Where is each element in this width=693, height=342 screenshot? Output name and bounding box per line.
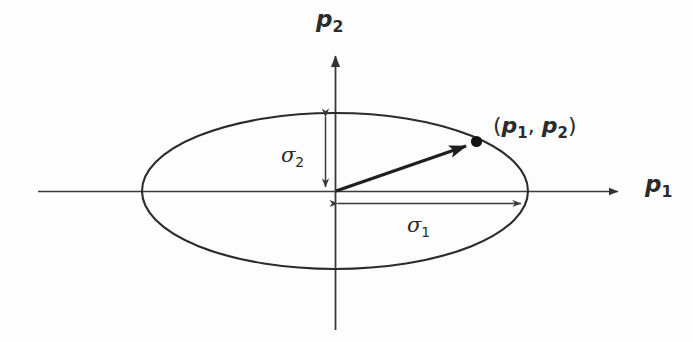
- p2-axis-label-subscript: 2: [332, 17, 343, 36]
- point-label-p2-base: p: [542, 113, 558, 138]
- sigma2-label: σ2: [281, 143, 304, 170]
- p2-axis-label: p2: [316, 6, 343, 36]
- point-coordinates-label: (p1, p2): [493, 113, 577, 142]
- ellipse-diagram-svg: [0, 0, 693, 342]
- figure-canvas: p2 p1 (p1, p2) σ2 σ1: [0, 0, 693, 342]
- point-label-open-paren: (: [493, 113, 502, 138]
- sigma1-subscript: 1: [421, 224, 430, 240]
- point-label-p1-base: p: [502, 113, 518, 138]
- point-label-close-paren: ): [568, 113, 577, 138]
- data-point-dot: [471, 136, 482, 147]
- p1-axis-label: p1: [645, 171, 672, 201]
- position-vector-arrow: [336, 146, 466, 191]
- p1-axis-label-base: p: [645, 171, 661, 197]
- point-label-p1-subscript: 1: [517, 124, 527, 142]
- point-label-p2-subscript: 2: [558, 124, 568, 142]
- sigma2-subscript: 2: [295, 154, 304, 170]
- p2-axis-label-base: p: [316, 6, 332, 32]
- sigma2-symbol: σ: [281, 143, 295, 167]
- sigma1-label: σ1: [407, 213, 430, 240]
- p1-axis-label-subscript: 1: [661, 182, 672, 201]
- sigma1-symbol: σ: [407, 213, 421, 237]
- point-label-separator: ,: [528, 113, 542, 138]
